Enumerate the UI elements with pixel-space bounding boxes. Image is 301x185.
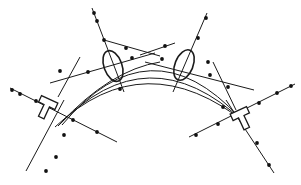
arch-clamp-diagram bbox=[0, 0, 301, 185]
node-dot bbox=[275, 91, 279, 95]
diagram-canvas bbox=[0, 0, 301, 185]
clamp-tee-right-icon bbox=[230, 107, 255, 133]
guide-line bbox=[140, 43, 175, 55]
node-dot bbox=[226, 85, 230, 89]
clamp-oval-right-icon bbox=[170, 47, 199, 83]
node-dot bbox=[221, 105, 225, 109]
node-dot bbox=[160, 57, 164, 61]
node-dot bbox=[95, 130, 99, 134]
node-dot bbox=[44, 169, 48, 173]
node-dot bbox=[102, 38, 106, 42]
node-dot bbox=[196, 36, 200, 40]
node-dot bbox=[71, 118, 75, 122]
node-dot bbox=[10, 88, 14, 92]
guide-line bbox=[58, 57, 80, 97]
node-dot bbox=[118, 87, 122, 91]
node-points bbox=[10, 11, 293, 173]
guide-line bbox=[226, 100, 274, 173]
arch-curve bbox=[58, 78, 244, 126]
node-dot bbox=[206, 60, 210, 64]
guide-line bbox=[145, 62, 254, 90]
node-dot bbox=[54, 155, 58, 159]
node-dot bbox=[124, 46, 128, 50]
node-dot bbox=[204, 16, 208, 20]
node-dot bbox=[257, 101, 261, 105]
node-dot bbox=[216, 122, 220, 126]
node-dot bbox=[62, 133, 66, 137]
node-dot bbox=[130, 56, 134, 60]
node-dot bbox=[34, 99, 38, 103]
node-dot bbox=[163, 44, 167, 48]
node-dot bbox=[194, 133, 198, 137]
node-dot bbox=[255, 141, 259, 145]
guide-lines bbox=[10, 8, 295, 173]
node-dot bbox=[58, 69, 62, 73]
node-dot bbox=[92, 11, 96, 15]
node-dot bbox=[208, 73, 212, 77]
node-dot bbox=[267, 163, 271, 167]
node-dot bbox=[86, 70, 90, 74]
arch-curve bbox=[55, 84, 247, 127]
node-dot bbox=[18, 92, 22, 96]
node-dot bbox=[289, 84, 293, 88]
clamp-oval-left-icon bbox=[99, 48, 127, 84]
node-dot bbox=[95, 19, 99, 23]
